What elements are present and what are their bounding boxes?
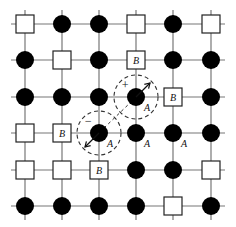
vacancy-square-icon (202, 161, 220, 179)
label-A: A (106, 138, 114, 149)
vacancy-square-icon (16, 161, 34, 179)
label-B: B (170, 92, 176, 103)
atom-filled-circle-icon (164, 161, 182, 179)
atom-filled-circle-icon (202, 51, 220, 69)
atom-filled-circle-icon (16, 51, 34, 69)
label-B: B (133, 55, 139, 66)
label-A: A (143, 102, 151, 113)
atom-filled-circle-icon (127, 161, 145, 179)
atom-filled-circle-icon (90, 15, 108, 33)
atom-filled-circle-icon (127, 197, 145, 215)
vacancy-square-icon (127, 15, 145, 33)
dashed-connector (103, 101, 132, 129)
atom-filled-circle-icon (164, 51, 182, 69)
plus-sign: + (121, 78, 129, 92)
atom-filled-circle-icon (90, 51, 108, 69)
atom-filled-circle-icon (164, 15, 182, 33)
atom-filled-circle-icon (53, 197, 71, 215)
atom-filled-circle-icon (90, 197, 108, 215)
vacancy-square-icon (53, 161, 71, 179)
label-A: A (180, 138, 188, 149)
atom-filled-circle-icon (16, 88, 34, 106)
atom-filled-circle-icon (164, 124, 182, 142)
annotations: BABBAAAB+− (59, 55, 188, 176)
atom-filled-circle-icon (53, 88, 71, 106)
vacancy-square-icon (53, 51, 71, 69)
label-B: B (59, 128, 65, 139)
minus-sign: − (84, 114, 92, 128)
atom-filled-circle-icon (90, 88, 108, 106)
atom-filled-circle-icon (202, 124, 220, 142)
lattice-diagram: BABBAAAB+− (0, 0, 236, 227)
atom-filled-circle-icon (16, 197, 34, 215)
vacancy-square-icon (164, 197, 182, 215)
vacancy-square-icon (16, 15, 34, 33)
atom-filled-circle-icon (202, 197, 220, 215)
vacancy-square-icon (202, 15, 220, 33)
vacancy-square-icon (16, 124, 34, 142)
label-B: B (96, 165, 102, 176)
atom-filled-circle-icon (127, 124, 145, 142)
atom-filled-circle-icon (202, 88, 220, 106)
atom-filled-circle-icon (53, 15, 71, 33)
label-A: A (143, 138, 151, 149)
